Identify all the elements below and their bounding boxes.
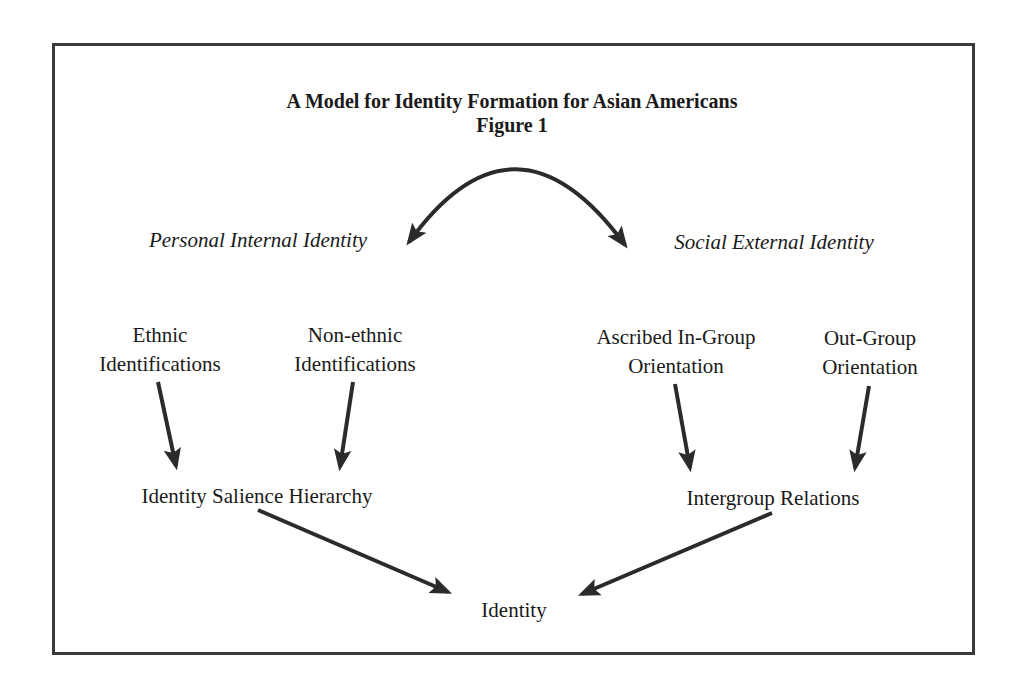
branch-social-external-identity: Social External Identity	[674, 228, 873, 257]
arrow-outgroup-to-intergroup	[855, 386, 869, 468]
node-ascribed-in-group-orientation: Ascribed In-Group Orientation	[596, 323, 755, 381]
node-ethnic-line1: Ethnic	[99, 321, 220, 350]
arrow-intergroup-to-identity	[582, 513, 772, 594]
node-ascribed-line1: Ascribed In-Group	[596, 323, 755, 352]
arrow-ethnic-to-salience	[158, 382, 176, 466]
arrow-salience-to-identity	[258, 510, 448, 592]
node-ethnic-line2: Identifications	[99, 350, 220, 379]
node-ethnic-identifications: Ethnic Identifications	[99, 321, 220, 379]
branch-personal-internal-identity: Personal Internal Identity	[149, 226, 367, 255]
node-out-group-orientation: Out-Group Orientation	[822, 324, 918, 382]
figure-title: A Model for Identity Formation for Asian…	[287, 89, 738, 114]
node-identity: Identity	[481, 596, 546, 625]
arc-arrow-personal-social	[409, 169, 625, 245]
node-out-group-line1: Out-Group	[822, 324, 918, 353]
node-non-ethnic-line2: Identifications	[294, 350, 415, 379]
node-non-ethnic-line1: Non-ethnic	[294, 321, 415, 350]
arrow-ascribed-to-intergroup	[675, 384, 690, 468]
node-non-ethnic-identifications: Non-ethnic Identifications	[294, 321, 415, 379]
node-out-group-line2: Orientation	[822, 353, 918, 382]
arrow-nonethnic-to-salience	[340, 382, 353, 467]
node-intergroup-relations: Intergroup Relations	[687, 484, 860, 513]
node-identity-salience-hierarchy: Identity Salience Hierarchy	[142, 482, 373, 511]
figure-subtitle: Figure 1	[476, 113, 547, 138]
node-ascribed-line2: Orientation	[596, 352, 755, 381]
